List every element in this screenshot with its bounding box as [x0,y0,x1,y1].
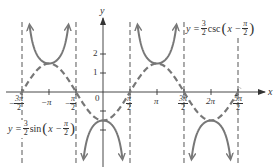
x-tick-label-neg-pi: −π [41,98,52,107]
denominator: 2 [202,29,206,37]
cosecant-branch [103,121,122,159]
function-name: csc [208,23,221,34]
fraction: 3π2 [178,95,188,113]
cosecant-branch [192,121,211,159]
fraction: π2 [126,95,132,113]
x-tick-label-neg-3pi-2: − 3π2 [9,95,24,113]
fraction: 5π2 [233,95,243,113]
denominator: 2 [71,104,75,112]
cosecant-branch [138,25,157,63]
y-tick-label-1: 1 [93,68,98,77]
cosecant-branch [211,121,230,159]
function-name: sin [30,123,42,134]
x-tick-label-neg-pi-2: − π2 [65,95,76,113]
paren-close: ) [249,21,254,36]
coefficient-fraction: 32 [201,20,207,38]
cosecant-branch [157,25,176,63]
x-tick-label-3pi-2: 3π2 [178,95,188,113]
paren-open: ( [221,21,226,36]
fraction: 3π2 [14,95,24,113]
x-tick-label-5pi-2: 5π2 [233,95,243,113]
denominator: 2 [64,129,68,137]
csc-equation-label: y = 32 csc ( x − π2 ) [186,20,254,38]
denominator: 2 [24,129,28,137]
x-axis-label: x [268,87,272,97]
y-tick-label-2: 2 [93,49,98,58]
equation-lhs: y = [8,123,22,134]
denominator: 2 [181,104,185,112]
denominator: 2 [243,29,247,37]
phase-fraction: π2 [63,120,69,138]
x-tick-label-pi-2: π2 [126,95,132,113]
cosecant-branch [84,121,103,159]
x-tick-label-pi: π [154,97,159,106]
phase-fraction: π2 [242,20,248,38]
denominator: 2 [236,104,240,112]
sin-equation-label: y = 32 sin ( x − π2 ) [8,120,75,138]
coefficient-fraction: 32 [23,120,29,138]
argument: x − [227,23,241,34]
argument: x − [48,123,62,134]
cosecant-branch [49,25,68,63]
origin-label: 0 [95,94,100,103]
paren-open: ( [42,121,47,136]
cosecant-branch [30,25,49,63]
y-axis-label: y [100,6,104,16]
denominator: 2 [17,104,21,112]
equation-lhs: y = [186,23,200,34]
paren-close: ) [70,121,75,136]
denominator: 2 [127,104,131,112]
fraction: π2 [70,95,76,113]
x-tick-label-2pi: 2π [206,97,215,106]
